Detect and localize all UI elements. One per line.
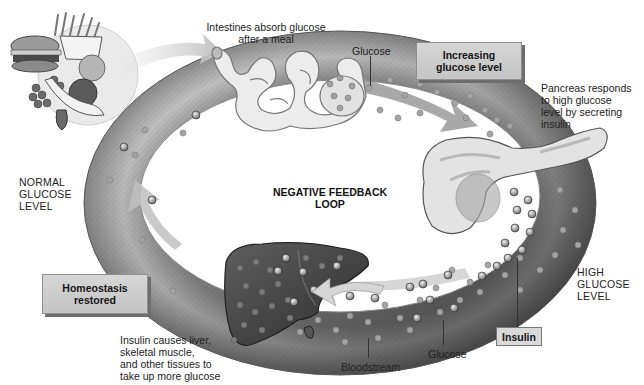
insulin-pointer: [517, 258, 518, 336]
caption-line: Intestines absorb glucose: [196, 21, 336, 33]
bloodstream-pointer: [368, 338, 369, 358]
homeostasis-restored-box: Homeostasis restored: [42, 274, 148, 314]
intestines-caption: Intestines absorb glucose after a meal: [196, 21, 336, 45]
state-line: NORMAL: [19, 176, 72, 188]
diagram-title: NEGATIVE FEEDBACK LOOP: [255, 186, 405, 210]
box-line: restored: [43, 294, 147, 306]
box-line: glucose level: [417, 61, 521, 73]
glucose-top-label: Glucose: [352, 45, 391, 57]
liver-caption: Insulin causes liver, skeletal muscle, a…: [120, 334, 220, 382]
state-line: GLUCOSE: [19, 188, 72, 200]
normal-glucose-level-label: NORMAL GLUCOSE LEVEL: [19, 176, 72, 212]
glucose-bottom-pointer: [443, 320, 444, 346]
pancreas-caption: Pancreas responds to high glucose level …: [541, 82, 631, 130]
negative-feedback-diagram: NEGATIVE FEEDBACK LOOP NORMAL GLUCOSE LE…: [0, 0, 644, 385]
glucose-top-pointer: [370, 56, 371, 86]
meal-plate-icon: [11, 13, 138, 130]
box-line: Increasing: [417, 49, 521, 61]
glucose-bottom-label: Glucose: [428, 348, 467, 360]
title-line-2: LOOP: [255, 198, 405, 210]
high-glucose-level-label: HIGH GLUCOSE LEVEL: [577, 266, 630, 302]
box-line: Homeostasis: [43, 282, 147, 294]
insulin-box: Insulin: [496, 327, 542, 346]
title-line-1: NEGATIVE FEEDBACK: [255, 186, 405, 198]
state-line: GLUCOSE: [577, 278, 630, 290]
caption-line: after a meal: [196, 33, 336, 45]
caption-line: and other tissues to: [120, 358, 220, 370]
bloodstream-label: Bloodstream: [341, 361, 400, 373]
caption-line: Insulin causes liver,: [120, 334, 220, 346]
caption-line: insulin: [541, 118, 631, 130]
state-line: HIGH: [577, 266, 630, 278]
caption-line: skeletal muscle,: [120, 346, 220, 358]
caption-line: to high glucose: [541, 94, 631, 106]
state-line: LEVEL: [19, 200, 72, 212]
caption-line: level by secreting: [541, 106, 631, 118]
caption-line: Pancreas responds: [541, 82, 631, 94]
state-line: LEVEL: [577, 290, 630, 302]
caption-line: take up more glucose: [120, 370, 220, 382]
increasing-glucose-box: Increasing glucose level: [416, 42, 522, 80]
